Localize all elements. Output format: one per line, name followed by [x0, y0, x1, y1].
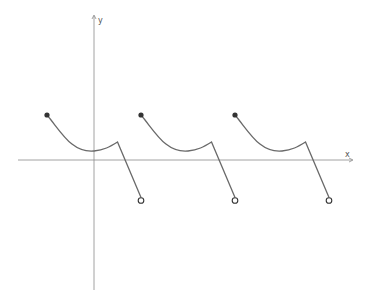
curve-group	[44, 112, 331, 203]
axes: x y	[18, 15, 353, 290]
open-point-period-3	[326, 198, 332, 204]
closed-point-period-1	[44, 112, 49, 117]
open-point-period-2	[232, 198, 238, 204]
curve-period-2	[141, 115, 235, 198]
closed-point-period-2	[138, 112, 143, 117]
y-axis-label: y	[98, 16, 103, 25]
open-point-period-1	[138, 198, 144, 204]
curve-period-3	[235, 115, 329, 198]
function-graph: x y	[0, 0, 370, 305]
x-axis-label: x	[345, 150, 350, 159]
closed-point-period-3	[232, 112, 237, 117]
